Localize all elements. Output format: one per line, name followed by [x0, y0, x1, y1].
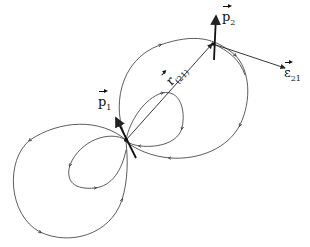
- label-p2: p2: [222, 10, 235, 27]
- p2-arrow: [214, 16, 216, 60]
- label-p1: p1: [98, 95, 111, 112]
- field-line-upper-outer: [119, 38, 248, 158]
- label-e21-sub: 21: [291, 74, 301, 83]
- field-lines: [0, 0, 310, 247]
- label-e21: ε21: [284, 66, 301, 83]
- field-line-lower-inner: [69, 136, 126, 188]
- label-p2-symbol: p: [222, 10, 230, 23]
- label-p2-sub: 2: [230, 18, 235, 27]
- label-p1-sub: 1: [106, 103, 111, 112]
- dipole-diagram: p2 p1 r(21) ε21: [0, 0, 310, 247]
- e21-vector: [213, 44, 285, 68]
- label-p1-symbol: p: [98, 95, 106, 108]
- label-e21-symbol: ε: [284, 66, 291, 79]
- r21-vector: [126, 44, 212, 140]
- field-line-upper-inner: [126, 93, 183, 147]
- field-line-p2-right: [213, 44, 245, 75]
